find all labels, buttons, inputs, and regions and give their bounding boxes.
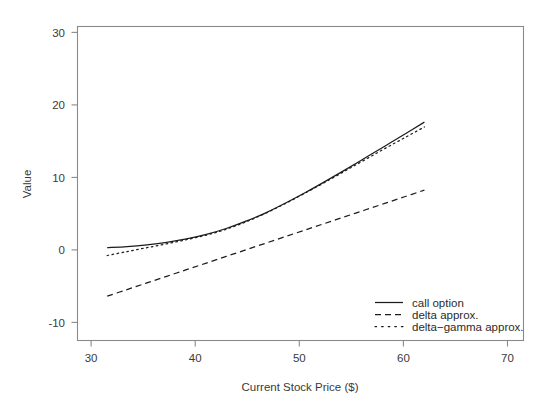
x-axis-title: Current Stock Price ($) xyxy=(242,381,359,393)
legend-label-delta-gamma-approx: delta−gamma approx. xyxy=(412,321,524,333)
x-tick-label: 60 xyxy=(397,352,410,364)
x-tick-label: 40 xyxy=(189,352,202,364)
x-tick-label: 50 xyxy=(293,352,306,364)
x-tick-label: 70 xyxy=(501,352,514,364)
chart-background xyxy=(0,0,542,411)
chart-figure: 30 20 10 0 -10 30 40 50 60 70 Current St… xyxy=(0,0,542,411)
legend-label-call-option: call option xyxy=(412,297,464,309)
y-tick-label: 0 xyxy=(59,244,65,256)
y-tick-label: 20 xyxy=(52,99,65,111)
y-axis-title: Value xyxy=(21,170,33,199)
y-tick-label: 30 xyxy=(52,27,65,39)
option-value-line-chart: 30 20 10 0 -10 30 40 50 60 70 Current St… xyxy=(0,0,542,411)
legend-label-delta-approx: delta approx. xyxy=(412,309,479,321)
x-tick-label: 30 xyxy=(85,352,98,364)
y-tick-label: -10 xyxy=(48,317,65,329)
y-tick-label: 10 xyxy=(52,172,65,184)
